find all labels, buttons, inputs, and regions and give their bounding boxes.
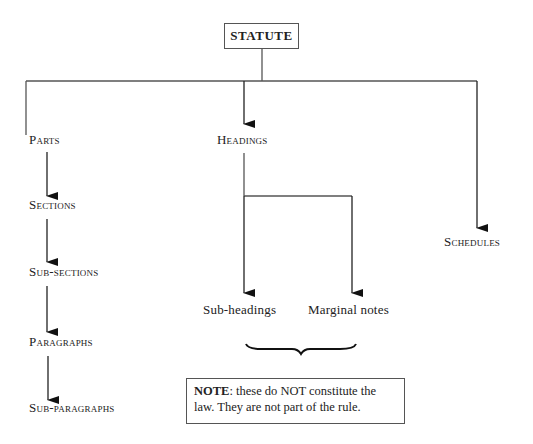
node-sections: Sections [29,197,76,213]
node-parts: Parts [29,132,60,148]
note-box: NOTE: these do NOT constitute the law. T… [186,378,405,424]
root-node-statute: STATUTE [224,23,299,49]
grouping-brace [246,344,356,354]
node-marginal-notes: Marginal notes [308,302,389,318]
node-sub-headings: Sub-headings [203,302,276,318]
node-headings: Headings [217,132,268,148]
node-sub-sections: Sub-sections [29,264,98,280]
node-schedules: Schedules [444,234,500,250]
root-label: STATUTE [230,28,292,44]
node-paragraphs: Paragraphs [29,334,93,350]
note-prefix: NOTE [194,384,229,398]
node-sub-paragraphs: Sub-paragraphs [29,400,115,416]
